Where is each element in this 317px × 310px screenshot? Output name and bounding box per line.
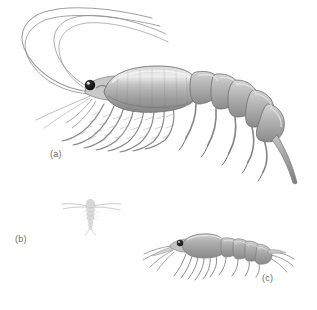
specimen-a-telson xyxy=(272,135,297,184)
specimen-c-telson xyxy=(268,250,286,254)
specimen-b-thorax xyxy=(87,208,95,220)
specimen-c-abdomen xyxy=(221,238,272,264)
plate-artwork xyxy=(0,0,317,310)
illustration-plate: (a) (b) (c) xyxy=(0,0,317,310)
panel-label-c: (c) xyxy=(262,273,273,283)
specimen-b-urosome xyxy=(88,220,93,230)
panel-label-a: (a) xyxy=(50,149,62,159)
specimen-b-artwork xyxy=(62,200,121,236)
specimen-c-thoracic-legs xyxy=(174,254,217,280)
specimen-b-head xyxy=(86,200,95,209)
specimen-a-abdomen xyxy=(190,71,284,141)
specimen-a-artwork xyxy=(22,8,297,184)
panel-label-b: (b) xyxy=(15,234,27,244)
specimen-c-uropods xyxy=(270,252,294,272)
specimen-c-carapace xyxy=(182,234,226,258)
specimen-b-caudal-rami xyxy=(86,229,96,235)
specimen-c-eye xyxy=(177,240,183,246)
specimen-a-carapace xyxy=(104,66,199,112)
specimen-a-pleopod-tips xyxy=(179,138,263,181)
